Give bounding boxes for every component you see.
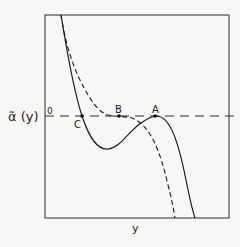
diagram-canvas: 0 C B A α̃ (y) y — [0, 0, 240, 247]
y-axis-label: α̃ (y) — [8, 109, 39, 124]
x-axis-label: y — [132, 222, 139, 235]
point-c-label: C — [74, 119, 81, 130]
point-b-label: B — [115, 104, 122, 115]
point-a-label: A — [152, 104, 159, 115]
zero-label: 0 — [47, 106, 53, 116]
point-c-marker — [80, 114, 84, 118]
